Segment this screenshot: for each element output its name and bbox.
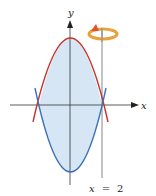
diagram: x y x = 2 xyxy=(0,0,156,196)
rotation-axis-label: x = 2 xyxy=(89,178,123,195)
y-axis-arrow-icon xyxy=(67,20,73,28)
x-axis-label: x xyxy=(141,100,147,111)
x-axis-arrow-icon xyxy=(131,102,139,108)
rotation-arrow-icon xyxy=(89,24,117,42)
y-axis-label: y xyxy=(67,7,74,18)
